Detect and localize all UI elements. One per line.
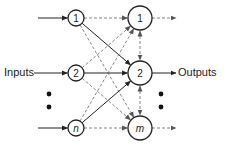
- connection-in1-outm: [80, 25, 134, 117]
- input-node-label: 1: [73, 13, 79, 24]
- outputs-label: Outputs: [178, 66, 217, 78]
- inputs-label: Inputs: [4, 66, 34, 78]
- output-node-1: 1: [128, 6, 152, 30]
- input-node-label: 2: [73, 68, 79, 79]
- input-node-n: n: [68, 120, 84, 136]
- input-node-2: 2: [68, 65, 84, 81]
- output-node-label: 2: [137, 68, 143, 79]
- input-ellipsis-dot: [47, 105, 52, 110]
- output-ellipsis-dot: [159, 92, 164, 97]
- output-ellipsis-dot: [159, 105, 164, 110]
- output-node-label: m: [136, 123, 144, 134]
- neural-network-diagram: 12n12m Inputs Outputs: [0, 0, 232, 149]
- connection-inn-out2: [82, 81, 130, 123]
- input-node-label: n: [73, 123, 79, 134]
- connection-in1-out2: [82, 23, 130, 65]
- output-node-label: 1: [137, 13, 143, 24]
- output-node-2: 2: [128, 61, 152, 85]
- input-ellipsis-dot: [47, 92, 52, 97]
- input-node-1: 1: [68, 10, 84, 26]
- output-node-m: m: [128, 116, 152, 140]
- connection-inn-out1: [80, 29, 134, 121]
